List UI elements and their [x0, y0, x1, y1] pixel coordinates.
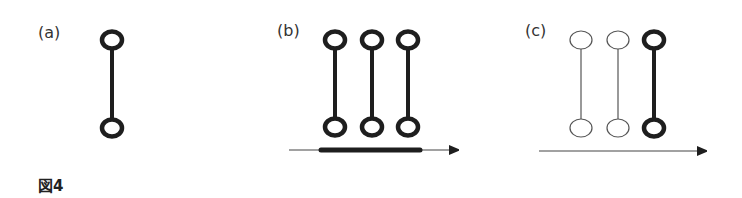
dumbbell-thick: [644, 32, 664, 137]
dumbbell-thick: [325, 32, 345, 136]
panel-c: (c): [525, 21, 706, 151]
top-node-icon: [102, 32, 122, 49]
bottom-node-icon: [570, 119, 592, 137]
figure-canvas: (a) (b) (c): [0, 0, 742, 198]
panel-a: (a): [38, 23, 122, 137]
dumbbell-thick: [102, 32, 122, 137]
top-node-icon: [325, 32, 345, 49]
bottom-node-icon: [607, 119, 629, 137]
bottom-node-icon: [398, 119, 418, 136]
panel-b-label: (b): [277, 21, 300, 40]
dumbbell-thick: [398, 32, 418, 136]
bottom-node-icon: [102, 120, 122, 137]
top-node-icon: [644, 32, 664, 49]
panel-c-label: (c): [525, 21, 546, 40]
top-node-icon: [398, 32, 418, 49]
bottom-node-icon: [325, 119, 345, 136]
dumbbell-thick: [362, 32, 382, 136]
top-node-icon: [607, 31, 629, 49]
dumbbell-thin: [607, 31, 629, 137]
top-node-icon: [570, 31, 592, 49]
figure-caption: 図4: [38, 177, 63, 195]
bottom-node-icon: [644, 120, 664, 137]
bottom-node-icon: [362, 119, 382, 136]
top-node-icon: [362, 32, 382, 49]
panel-b: (b): [277, 21, 458, 150]
dumbbell-thin: [570, 31, 592, 137]
panel-a-label: (a): [38, 23, 60, 42]
